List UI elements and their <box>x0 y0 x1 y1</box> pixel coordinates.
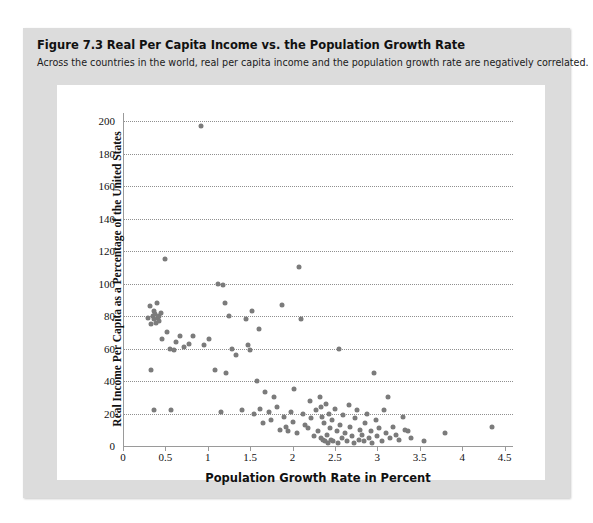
scatter-point <box>218 409 223 414</box>
y-axis-tick-label: 20 <box>75 408 115 420</box>
scatter-point <box>329 418 334 423</box>
scatter-point <box>348 424 353 429</box>
x-axis-tick-label: 2 <box>290 451 296 463</box>
scatter-point <box>271 395 276 400</box>
scatter-point <box>280 302 285 307</box>
scatter-point <box>388 435 393 440</box>
scatter-point <box>207 336 212 341</box>
figure-caption: Figure 7.3 Real Per Capita Income vs. th… <box>37 38 557 68</box>
scatter-point <box>379 439 384 444</box>
figure-title-text: Real Per Capita Income vs. the Populatio… <box>107 38 465 52</box>
x-axis-tick-label: 4 <box>459 451 465 463</box>
x-axis-tick-label: 3 <box>375 451 381 463</box>
scatter-point <box>292 387 297 392</box>
scatter-point <box>361 439 366 444</box>
gridline <box>123 154 513 155</box>
scatter-point <box>377 426 382 431</box>
scatter-point <box>343 431 348 436</box>
y-axis-line <box>123 113 124 446</box>
scatter-point <box>159 310 164 315</box>
x-axis-tick-label: 0.5 <box>159 451 173 463</box>
scatter-point <box>263 390 268 395</box>
scatter-point <box>269 418 274 423</box>
gridline <box>123 284 513 285</box>
figure-number: Figure 7.3 <box>37 38 103 52</box>
y-axis-title: Real Income Per Capita as a Percentage o… <box>111 131 123 426</box>
scatter-point <box>320 414 325 419</box>
x-axis-tick-label: 2.5 <box>328 451 342 463</box>
scatter-point <box>311 434 316 439</box>
scatter-point <box>282 414 287 419</box>
scatter-point <box>334 429 339 434</box>
scatter-point <box>421 439 426 444</box>
scatter-point <box>316 429 321 434</box>
y-axis-tick-label: 120 <box>75 245 115 257</box>
scatter-point <box>157 318 162 323</box>
scatter-point <box>229 346 234 351</box>
scatter-point <box>224 370 229 375</box>
gridline <box>123 381 513 382</box>
scatter-point <box>277 427 282 432</box>
x-axis-tick-label: 4.5 <box>498 451 512 463</box>
scatter-point <box>317 395 322 400</box>
scatter-point <box>148 367 153 372</box>
scatter-point <box>382 408 387 413</box>
scatter-point <box>409 435 414 440</box>
scatter-point <box>294 431 299 436</box>
scatter-point <box>355 408 360 413</box>
scatter-point <box>327 426 332 431</box>
scatter-point <box>363 421 368 426</box>
scatter-point <box>154 301 159 306</box>
scatter-point <box>233 353 238 358</box>
scatter-point <box>171 348 176 353</box>
scatter-point <box>341 413 346 418</box>
scatter-point <box>353 416 358 421</box>
scatter-point <box>288 409 293 414</box>
scatter-point <box>160 336 165 341</box>
y-axis-tick-label: 0 <box>75 440 115 452</box>
x-axis-tick-label: 1.5 <box>243 451 257 463</box>
scatter-point <box>383 431 388 436</box>
scatter-point <box>371 370 376 375</box>
scatter-point <box>305 426 310 431</box>
scatter-point <box>239 408 244 413</box>
y-axis-tick-label: 200 <box>75 115 115 127</box>
y-axis-tick-label: 80 <box>75 310 115 322</box>
scatter-point <box>400 414 405 419</box>
figure-panel: Figure 7.3 Real Per Capita Income vs. th… <box>23 28 570 498</box>
scatter-point <box>332 406 337 411</box>
y-axis-tick-label: 40 <box>75 375 115 387</box>
scatter-point <box>182 344 187 349</box>
scatter-point <box>151 408 156 413</box>
scatter-point <box>337 346 342 351</box>
figure-subtitle: Across the countries in the world, real … <box>37 57 557 68</box>
scatter-point <box>309 416 314 421</box>
scatter-point <box>191 333 196 338</box>
scatter-point <box>266 409 271 414</box>
scatter-point <box>360 432 365 437</box>
scatter-point <box>222 301 227 306</box>
gridline <box>123 219 513 220</box>
x-axis-title: Population Growth Rate in Percent <box>205 471 431 485</box>
scatter-point <box>173 340 178 345</box>
scatter-point <box>443 431 448 436</box>
scatter-point <box>396 437 401 442</box>
scatter-point <box>349 434 354 439</box>
y-axis-tick-label: 180 <box>75 148 115 160</box>
scatter-point <box>338 422 343 427</box>
x-axis-tick-label: 1 <box>205 451 211 463</box>
gridline <box>123 251 513 252</box>
scatter-point <box>300 411 305 416</box>
scatter-point <box>351 440 356 445</box>
scatter-point <box>286 429 291 434</box>
scatter-point <box>177 333 182 338</box>
scatter-point <box>260 421 265 426</box>
scatter-point <box>201 343 206 348</box>
gridline <box>123 316 513 317</box>
scatter-point <box>299 317 304 322</box>
gridline <box>123 414 513 415</box>
scatter-point <box>318 405 323 410</box>
scatter-point <box>256 327 261 332</box>
gridline <box>123 186 513 187</box>
scatter-point <box>375 434 380 439</box>
